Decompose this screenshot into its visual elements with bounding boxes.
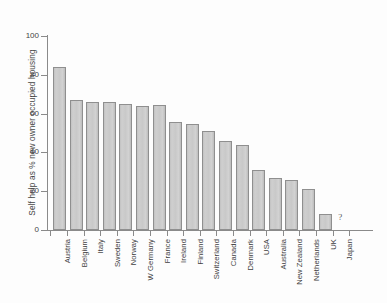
x-axis-category-label: Switzerland (212, 239, 221, 279)
bar (103, 102, 116, 230)
x-axis-line (47, 230, 373, 231)
y-axis-tick (41, 114, 47, 115)
bar (169, 122, 182, 230)
x-axis-tick (233, 231, 234, 236)
bar (319, 214, 332, 230)
x-axis-tick (183, 231, 184, 236)
y-axis-label: Self help as % new owner occupied housin… (28, 33, 37, 233)
y-axis-tick-label: 80 (1, 70, 39, 79)
x-axis-tick (216, 231, 217, 236)
bar (302, 189, 315, 230)
bar (70, 100, 83, 230)
bar-chart-figure: Self help as % new owner occupied housin… (0, 0, 387, 303)
x-axis-tick (250, 231, 251, 236)
bar (53, 67, 66, 230)
y-axis-tick-label: 60 (1, 109, 39, 118)
bar (202, 131, 215, 230)
bar (285, 180, 298, 230)
bar (252, 170, 265, 230)
y-axis-tick-label: 100 (1, 31, 39, 40)
bar (153, 105, 166, 230)
y-axis-tick (41, 36, 47, 37)
x-axis-tick (299, 231, 300, 236)
x-axis-tick (50, 231, 51, 236)
y-axis-tick (41, 152, 47, 153)
x-axis-tick (349, 231, 350, 236)
x-axis-category-label: Austria (63, 239, 72, 263)
x-axis-category-label: Norway (129, 239, 138, 265)
x-axis-tick (100, 231, 101, 236)
y-axis-tick (41, 75, 47, 76)
x-axis-category-label: Netherlands (312, 239, 321, 281)
bar (269, 178, 282, 230)
bar (86, 102, 99, 230)
x-axis-category-label: Ireland (179, 239, 188, 263)
x-axis-tick (167, 231, 168, 236)
x-axis-tick (200, 231, 201, 236)
x-axis-tick (266, 231, 267, 236)
bar (236, 145, 249, 230)
bar (186, 124, 199, 230)
x-axis-category-label: Japan (345, 239, 354, 260)
x-axis-tick (316, 231, 317, 236)
x-axis-category-label: Canada (229, 239, 238, 266)
x-axis-category-label: Denmark (246, 239, 255, 271)
y-axis-tick (41, 191, 47, 192)
x-axis-category-label: Belgium (80, 239, 89, 267)
plot-area (48, 36, 380, 230)
bar (119, 104, 132, 230)
x-axis-tick (333, 231, 334, 236)
x-axis-category-label: UK (329, 239, 338, 250)
y-axis-tick-label: 40 (1, 147, 39, 156)
x-axis-tick (133, 231, 134, 236)
x-axis-category-label: Sweden (113, 239, 122, 267)
x-axis-tick (283, 231, 284, 236)
x-axis-category-label: Australia (279, 239, 288, 269)
x-axis-tick (67, 231, 68, 236)
x-axis-category-label: France (163, 239, 172, 263)
x-axis-category-label: New Zealand (295, 239, 304, 285)
x-axis-category-label: USA (262, 239, 271, 255)
y-axis-tick-label: 0 (1, 225, 39, 234)
x-axis-tick (117, 231, 118, 236)
y-axis-tick (41, 230, 47, 231)
x-axis-category-label: Italy (96, 239, 105, 253)
no-data-annotation: ? (338, 212, 342, 222)
x-axis-tick (84, 231, 85, 236)
x-axis-category-label: Finland (196, 239, 205, 265)
bar (219, 141, 232, 230)
bar (136, 106, 149, 230)
x-axis-category-label: W Germany (146, 239, 155, 280)
x-axis-tick (150, 231, 151, 236)
y-axis-tick-label: 20 (1, 186, 39, 195)
